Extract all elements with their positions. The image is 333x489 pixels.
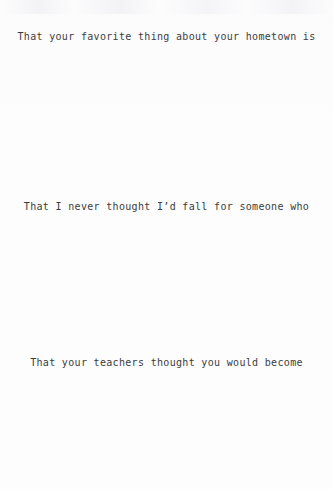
document-text-layer: That your favorite thing about your home…	[0, 0, 333, 489]
document-line-1: That your favorite thing about your home…	[0, 30, 333, 43]
document-page: That your favorite thing about your home…	[0, 0, 333, 489]
document-line-3: That your teachers thought you would bec…	[0, 356, 333, 369]
document-line-2: That I never thought I’d fall for someon…	[0, 200, 333, 213]
